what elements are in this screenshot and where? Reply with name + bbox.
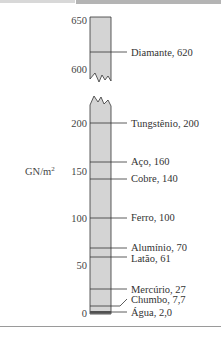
label-agua: Água, 2,0 bbox=[131, 307, 172, 318]
tick-150: 150 bbox=[71, 166, 87, 177]
bottom-rule bbox=[0, 326, 221, 327]
label-tungstenio: Tungstênio, 200 bbox=[131, 118, 199, 129]
tick-50: 50 bbox=[77, 260, 88, 271]
label-chumbo: Chumbo, 7,7 bbox=[131, 294, 186, 305]
label-diamante: Diamante, 620 bbox=[131, 47, 193, 58]
scale-chart: 650 600 200 150 100 50 0 GN/m2 Diamante,… bbox=[0, 0, 221, 341]
label-aco: Aço, 160 bbox=[131, 156, 170, 167]
label-ferro: Ferro, 100 bbox=[131, 212, 175, 223]
label-aluminio: Alumínio, 70 bbox=[131, 242, 187, 253]
tick-0: 0 bbox=[82, 308, 87, 319]
tick-200: 200 bbox=[71, 118, 87, 129]
tick-100: 100 bbox=[71, 213, 87, 224]
tick-600: 600 bbox=[71, 64, 87, 75]
lower-column bbox=[90, 96, 111, 314]
tick-650: 650 bbox=[71, 15, 87, 26]
upper-column bbox=[90, 17, 111, 82]
water-band bbox=[90, 311, 111, 314]
label-latao: Latão, 61 bbox=[131, 253, 171, 264]
y-axis-unit-label: GN/m2 bbox=[25, 165, 55, 177]
label-cobre: Cobre, 140 bbox=[131, 173, 178, 184]
